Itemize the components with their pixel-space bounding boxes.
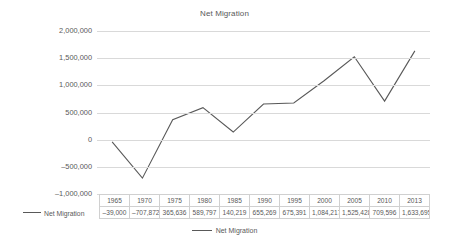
gridline — [97, 85, 430, 86]
chart-title: Net Migration — [0, 9, 449, 18]
table-column-header: 1980 — [190, 195, 220, 207]
table-cell-value: –39,000 — [100, 207, 130, 219]
table-cell-value: –707,872 — [130, 207, 160, 219]
table-series-swatch — [23, 212, 41, 213]
table-row-label-text: Net Migration — [44, 209, 84, 216]
table-row: Net Migration–39,000–707,872365,636589,7… — [22, 207, 430, 219]
table-row-label: Net Migration — [22, 207, 100, 219]
table-column-header: 2000 — [310, 195, 340, 207]
table-column-header: 1970 — [130, 195, 160, 207]
data-table: 1965197019751980198519901995200020052010… — [22, 194, 430, 219]
chart-legend: Net Migration — [0, 226, 449, 234]
legend-swatch-net-migration — [192, 230, 212, 231]
table-cell-value: 675,391 — [280, 207, 310, 219]
table-column-header: 1995 — [280, 195, 310, 207]
table-cell-value: 365,636 — [160, 207, 190, 219]
net-migration-chart: Net Migration 2,000,0001,500,0001,000,00… — [0, 0, 449, 242]
table-row: 1965197019751980198519901995200020052010… — [22, 195, 430, 207]
table-column-header: 1990 — [250, 195, 280, 207]
y-axis-tick-label: –500,000 — [32, 163, 92, 171]
table-cell-value: 1,525,428 — [340, 207, 370, 219]
y-axis-tick-label: 2,000,000 — [32, 27, 92, 35]
gridline — [97, 167, 430, 168]
legend-label-net-migration: Net Migration — [216, 227, 258, 234]
y-axis-tick-label: 1,000,000 — [32, 81, 92, 89]
table-corner-cell — [22, 195, 100, 207]
table-column-header: 2005 — [340, 195, 370, 207]
table-cell-value: 709,596 — [370, 207, 400, 219]
table-cell-value: 589,797 — [190, 207, 220, 219]
y-axis-tick-label: 0 — [32, 136, 92, 144]
y-axis-tick-label: 1,500,000 — [32, 54, 92, 62]
gridline — [97, 58, 430, 59]
table-cell-value: 1,633,695 — [400, 207, 430, 219]
gridline — [97, 140, 430, 141]
table-column-header: 1985 — [220, 195, 250, 207]
table-cell-value: 1,084,217 — [310, 207, 340, 219]
gridline — [97, 113, 430, 114]
table-cell-value: 140,219 — [220, 207, 250, 219]
table-column-header: 1975 — [160, 195, 190, 207]
y-axis: 2,000,0001,500,0001,000,000500,0000–500,… — [28, 31, 92, 194]
table-cell-value: 655,269 — [250, 207, 280, 219]
plot-area — [97, 31, 430, 194]
table-column-header: 2010 — [370, 195, 400, 207]
gridline — [97, 31, 430, 32]
table-column-header: 2013 — [400, 195, 430, 207]
y-axis-tick-label: 500,000 — [32, 109, 92, 117]
table-column-header: 1965 — [100, 195, 130, 207]
